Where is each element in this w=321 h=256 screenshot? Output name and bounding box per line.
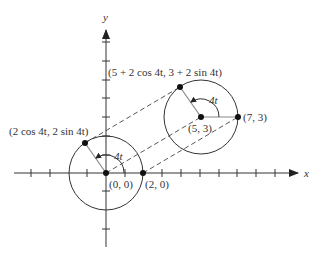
label-7-3: (7, 3) <box>243 111 267 124</box>
x-axis-label: x <box>303 167 309 179</box>
label-rotating-upper: (5 + 2 cos 4t, 3 + 2 sin 4t) <box>108 66 222 79</box>
rotating-point-upper <box>177 84 183 90</box>
center-5-3 <box>198 114 204 120</box>
radius-upper-rotating <box>180 87 201 117</box>
label-2-0: (2, 0) <box>145 178 169 191</box>
translated-circle-diagram: x y <box>0 0 321 256</box>
point-2-0 <box>140 170 146 176</box>
point-7-3 <box>235 114 241 120</box>
y-axis-label: y <box>102 11 108 23</box>
angle-4t-lower: 4t <box>114 150 124 162</box>
angle-4t-upper: 4t <box>209 94 219 106</box>
dashed-line-origin-to-center <box>106 117 201 173</box>
label-rotating-lower: (2 cos 4t, 2 sin 4t) <box>9 125 89 138</box>
rotating-point-lower <box>82 140 88 146</box>
origin-point <box>103 170 109 176</box>
label-origin: (0, 0) <box>109 178 133 191</box>
label-5-3: (5, 3) <box>188 122 212 135</box>
diagram-canvas: x y <box>0 0 321 256</box>
dashed-line-rotating-points <box>85 87 180 143</box>
radius-lower-rotating <box>85 143 106 173</box>
